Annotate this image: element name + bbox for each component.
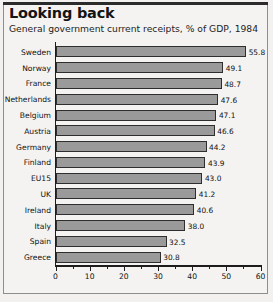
x-axis-minor-tick: [73, 266, 74, 269]
bar-value-label: 48.7: [224, 80, 240, 89]
bar: [56, 236, 167, 247]
bar-value-label: 55.8: [249, 48, 265, 57]
bar-value-label: 38.0: [188, 222, 204, 231]
bar: [56, 220, 186, 231]
category-label: France: [0, 79, 51, 88]
x-axis-tick-label: 60: [249, 272, 273, 281]
bar: [56, 173, 203, 184]
x-axis-minor-tick: [209, 266, 210, 269]
x-axis-minor-tick: [141, 266, 142, 269]
bar: [56, 46, 247, 57]
bar: [56, 188, 197, 199]
bar-value-label: 43.9: [208, 159, 224, 168]
x-axis-minor-tick: [175, 266, 176, 269]
bar-value-label: 44.2: [209, 143, 225, 152]
bar-value-label: 47.6: [221, 96, 237, 105]
bar: [56, 125, 215, 136]
category-label: Belgium: [0, 111, 51, 120]
category-label: Spain: [0, 237, 51, 246]
bar: [56, 252, 161, 263]
bar-value-label: 40.6: [197, 206, 213, 215]
bar-value-label: 30.8: [163, 253, 179, 262]
bar-value-label: 43.0: [205, 174, 221, 183]
bar-value-label: 47.1: [219, 111, 235, 120]
x-axis-major-tick: [124, 266, 125, 271]
category-label: Austria: [0, 127, 51, 136]
bar: [56, 78, 222, 89]
category-label: Sweden: [0, 48, 51, 57]
bar: [56, 62, 224, 73]
x-axis-tick-label: 30: [146, 272, 170, 281]
x-axis-tick-label: 20: [112, 272, 136, 281]
x-axis-major-tick: [158, 266, 159, 271]
bar: [56, 141, 207, 152]
category-label: Finland: [0, 158, 51, 167]
category-label: Greece: [0, 253, 51, 262]
x-axis-major-tick: [90, 266, 91, 271]
x-axis-major-tick: [261, 266, 262, 271]
x-axis-major-tick: [56, 266, 57, 271]
bar-value-label: 32.5: [169, 238, 185, 247]
bar: [56, 94, 219, 105]
category-label: EU15: [0, 174, 51, 183]
category-label: Italy: [0, 222, 51, 231]
x-axis-tick-label: 50: [214, 272, 238, 281]
x-axis-tick-label: 40: [180, 272, 204, 281]
x-axis-minor-tick: [107, 266, 108, 269]
plot-area: Sweden55.8Norway49.1France48.7Netherland…: [0, 0, 273, 302]
y-axis-line: [55, 42, 57, 266]
category-label: Ireland: [0, 206, 51, 215]
x-axis-tick-label: 10: [78, 272, 102, 281]
x-axis-major-tick: [192, 266, 193, 271]
bar-value-label: 41.2: [199, 190, 215, 199]
bar: [56, 110, 217, 121]
x-axis-major-tick: [226, 266, 227, 271]
bar: [56, 204, 195, 215]
category-label: UK: [0, 190, 51, 199]
bar-value-label: 46.6: [217, 127, 233, 136]
category-label: Netherlands: [0, 95, 51, 104]
category-label: Germany: [0, 143, 51, 152]
bar: [56, 157, 206, 168]
bar-value-label: 49.1: [226, 64, 242, 73]
chart-figure: Looking back General government current …: [0, 0, 273, 302]
category-label: Norway: [0, 64, 51, 73]
x-axis-minor-tick: [243, 266, 244, 269]
x-axis-tick-label: 0: [44, 272, 68, 281]
